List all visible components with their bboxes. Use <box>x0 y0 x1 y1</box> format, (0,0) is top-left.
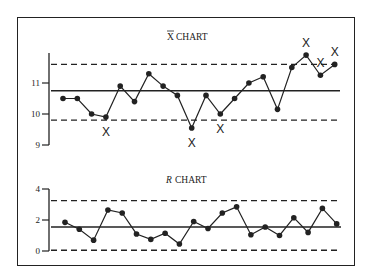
r-data-point <box>134 231 140 237</box>
xbar-data-point <box>175 93 181 99</box>
r-chart-title: R CHART <box>165 175 207 185</box>
control-charts: X CHART 91011XXXXXX R CHART 024 <box>0 0 372 280</box>
r-data-point <box>248 232 254 238</box>
r-data-point <box>105 207 111 213</box>
xbar-data-point <box>303 52 309 58</box>
r-tick-label: 4 <box>36 184 41 194</box>
xbar-tick-label: 11 <box>31 78 40 88</box>
r-tick-label: 2 <box>36 215 41 225</box>
r-title-text: CHART <box>175 175 207 185</box>
xbar-data-point <box>260 74 266 80</box>
xbar-data-point <box>246 80 252 86</box>
r-data-point <box>148 237 154 243</box>
xbar-tick-label: 10 <box>31 109 41 119</box>
r-data-point <box>191 219 197 225</box>
r-y-axis: 024 <box>36 184 50 256</box>
r-data-point <box>262 224 268 230</box>
xbar-data-point <box>89 111 95 117</box>
xbar-data-point <box>203 93 209 99</box>
xbar-data-point <box>318 72 324 78</box>
r-data-point <box>62 220 68 226</box>
r-symbol: R <box>165 175 172 185</box>
xbar-data-point <box>332 62 338 68</box>
r-data-point <box>305 230 311 236</box>
xbar-symbol: X <box>167 32 174 42</box>
xbar-y-axis: 91011 <box>31 53 49 150</box>
r-data-point <box>220 210 226 216</box>
xbar-flag-x-icon: X <box>102 125 110 139</box>
xbar-flag-x-icon: X <box>216 122 224 136</box>
r-data-point <box>77 227 83 233</box>
xbar-data-point <box>60 96 66 102</box>
xbar-data-point <box>232 96 238 102</box>
xbar-data-point <box>146 71 152 77</box>
xbar-flag-x-icon: X <box>188 136 196 150</box>
r-data-point <box>291 215 297 221</box>
r-tick-label: 0 <box>36 246 41 256</box>
r-data-point <box>205 226 211 232</box>
xbar-flag-x-icon: X <box>316 56 324 70</box>
xbar-data-point <box>275 107 281 113</box>
r-data-point <box>334 221 340 227</box>
xbar-chart-title: X CHART <box>167 31 208 42</box>
r-data-point <box>320 206 326 212</box>
r-data-point <box>177 241 183 247</box>
xbar-data-point <box>160 83 166 89</box>
xbar-chart: 91011XXXXXX <box>31 36 340 150</box>
xbar-data-point <box>75 96 81 102</box>
xbar-data-point <box>103 114 109 120</box>
r-series-line <box>65 207 337 244</box>
r-data-point <box>91 237 97 243</box>
xbar-data-point <box>189 125 195 131</box>
r-data-point <box>119 210 125 216</box>
r-data-point <box>277 233 283 239</box>
xbar-tick-label: 9 <box>36 140 41 150</box>
xbar-title-text: CHART <box>176 32 208 42</box>
r-data-point <box>162 230 168 236</box>
xbar-flag-x-icon: X <box>331 45 339 59</box>
xbar-data-point <box>218 111 224 117</box>
xbar-flag-x-icon: X <box>302 36 310 50</box>
xbar-data-point <box>132 99 138 105</box>
xbar-data-point <box>117 83 123 89</box>
xbar-data-point <box>289 65 295 71</box>
r-data-point <box>234 204 240 210</box>
r-chart: 024 <box>36 184 342 256</box>
